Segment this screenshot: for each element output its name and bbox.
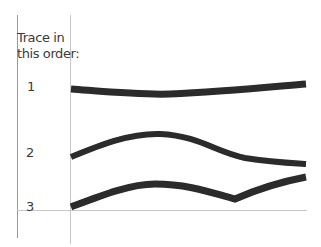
trace-line-1[interactable] [71,84,306,94]
trace-line-3[interactable] [71,177,306,207]
trace-number-2: 2 [26,145,34,161]
instruction-text: Trace in this order: [17,30,77,62]
instruction-line-2: this order: [17,46,77,62]
instruction-line-1: Trace in [17,30,77,46]
trace-number-3: 3 [26,199,34,215]
trace-number-1: 1 [27,79,35,95]
trace-line-2[interactable] [71,134,306,164]
tracing-worksheet: Trace in this order: 1 2 3 [0,0,321,247]
